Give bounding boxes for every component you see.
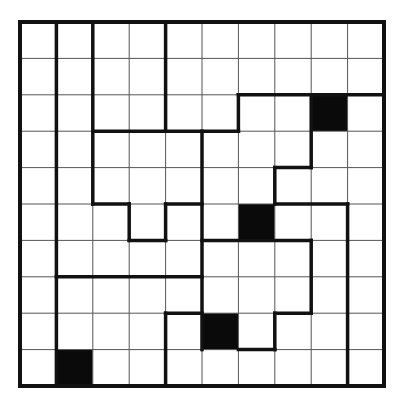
grid-cell[interactable]	[238, 313, 274, 349]
grid-cell[interactable]	[93, 240, 129, 276]
grid-cell[interactable]	[238, 22, 274, 58]
grid-cell[interactable]	[202, 350, 238, 386]
grid-cell[interactable]	[166, 350, 202, 386]
grid-cell[interactable]	[238, 350, 274, 386]
grid-cell[interactable]	[20, 58, 56, 94]
grid-cell[interactable]	[129, 95, 165, 131]
grid-cell[interactable]	[348, 204, 384, 240]
grid-cell[interactable]	[275, 58, 311, 94]
grid-cell[interactable]	[275, 277, 311, 313]
grid-cell[interactable]	[166, 58, 202, 94]
grid-cell[interactable]	[311, 277, 347, 313]
grid-cell[interactable]	[348, 131, 384, 167]
grid-cell[interactable]	[348, 95, 384, 131]
shaded-cell[interactable]	[311, 95, 347, 131]
grid-cell[interactable]	[166, 277, 202, 313]
grid-cell[interactable]	[348, 22, 384, 58]
grid-cell[interactable]	[20, 22, 56, 58]
grid-cell[interactable]	[202, 22, 238, 58]
grid-cell[interactable]	[202, 131, 238, 167]
grid-cell[interactable]	[56, 131, 92, 167]
grid-cell[interactable]	[275, 240, 311, 276]
grid-cell[interactable]	[129, 277, 165, 313]
grid-cell[interactable]	[129, 240, 165, 276]
grid-cell[interactable]	[166, 240, 202, 276]
grid-cell[interactable]	[93, 131, 129, 167]
grid-cell[interactable]	[311, 350, 347, 386]
grid-cell[interactable]	[275, 22, 311, 58]
grid-cell[interactable]	[275, 95, 311, 131]
grid-cell[interactable]	[20, 131, 56, 167]
grid-cell[interactable]	[238, 168, 274, 204]
grid-cell[interactable]	[238, 277, 274, 313]
grid-cell[interactable]	[238, 58, 274, 94]
shaded-cell[interactable]	[56, 350, 92, 386]
grid-cell[interactable]	[93, 58, 129, 94]
grid-cell[interactable]	[93, 95, 129, 131]
grid-cell[interactable]	[93, 277, 129, 313]
grid-cell[interactable]	[20, 240, 56, 276]
grid-cell[interactable]	[129, 350, 165, 386]
grid-cell[interactable]	[238, 95, 274, 131]
grid-cell[interactable]	[348, 58, 384, 94]
grid-cell[interactable]	[166, 168, 202, 204]
grid-cell[interactable]	[129, 313, 165, 349]
grid-cell[interactable]	[20, 95, 56, 131]
grid-cell[interactable]	[56, 204, 92, 240]
grid-cell[interactable]	[20, 277, 56, 313]
grid-cell[interactable]	[348, 313, 384, 349]
grid-cell[interactable]	[166, 313, 202, 349]
grid-cell[interactable]	[348, 240, 384, 276]
grid-cell[interactable]	[275, 350, 311, 386]
grid-cell[interactable]	[20, 204, 56, 240]
grid-cell[interactable]	[20, 350, 56, 386]
shaded-cell[interactable]	[202, 313, 238, 349]
grid-cell[interactable]	[166, 131, 202, 167]
grid-cell[interactable]	[56, 168, 92, 204]
grid-cell[interactable]	[166, 204, 202, 240]
grid-cell[interactable]	[56, 277, 92, 313]
grid-cell[interactable]	[275, 168, 311, 204]
grid-cell[interactable]	[56, 22, 92, 58]
grid-cell[interactable]	[311, 313, 347, 349]
grid-cell[interactable]	[202, 95, 238, 131]
grid-cell[interactable]	[202, 58, 238, 94]
grid-cell[interactable]	[311, 58, 347, 94]
grid-cell[interactable]	[311, 240, 347, 276]
grid-cell[interactable]	[93, 168, 129, 204]
grid-cell[interactable]	[56, 95, 92, 131]
grid-cell[interactable]	[129, 131, 165, 167]
grid-cell[interactable]	[202, 277, 238, 313]
grid-cell[interactable]	[20, 168, 56, 204]
grid-cell[interactable]	[238, 240, 274, 276]
grid-cell[interactable]	[348, 168, 384, 204]
grid-cell[interactable]	[275, 204, 311, 240]
grid-cell[interactable]	[202, 204, 238, 240]
grid-cell[interactable]	[56, 313, 92, 349]
grid-cell[interactable]	[166, 95, 202, 131]
grid-cell[interactable]	[275, 313, 311, 349]
grid-cell[interactable]	[311, 204, 347, 240]
grid-cell[interactable]	[93, 350, 129, 386]
grid-cell[interactable]	[348, 350, 384, 386]
grid-cell[interactable]	[129, 22, 165, 58]
grid-cell[interactable]	[166, 22, 202, 58]
grid-cell[interactable]	[129, 204, 165, 240]
grid-cell[interactable]	[311, 168, 347, 204]
grid-cell[interactable]	[56, 58, 92, 94]
shaded-cell[interactable]	[238, 204, 274, 240]
grid-cell[interactable]	[311, 131, 347, 167]
grid-cell[interactable]	[93, 22, 129, 58]
grid-cell[interactable]	[202, 168, 238, 204]
grid-cell[interactable]	[20, 313, 56, 349]
grid-cell[interactable]	[311, 22, 347, 58]
grid-cell[interactable]	[348, 277, 384, 313]
grid-cell[interactable]	[129, 58, 165, 94]
grid-cell[interactable]	[129, 168, 165, 204]
grid-cell[interactable]	[202, 240, 238, 276]
grid-cell[interactable]	[93, 204, 129, 240]
grid-cell[interactable]	[56, 240, 92, 276]
grid-cell[interactable]	[238, 131, 274, 167]
grid-cell[interactable]	[275, 131, 311, 167]
grid-cell[interactable]	[93, 313, 129, 349]
